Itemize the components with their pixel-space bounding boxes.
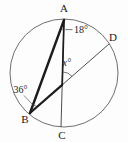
point-label-d: D — [109, 31, 117, 43]
diagram-canvas: A B C D 18° 36° x° — [0, 0, 128, 142]
geometry-diagram: A B C D 18° 36° x° — [0, 0, 128, 142]
point-label-c: C — [58, 129, 65, 141]
angle-label-36: 36° — [14, 84, 28, 95]
angle-label-x: x° — [62, 57, 71, 68]
point-label-a: A — [60, 2, 68, 14]
angle-label-18: 18° — [74, 24, 88, 35]
point-label-b: B — [21, 113, 28, 125]
